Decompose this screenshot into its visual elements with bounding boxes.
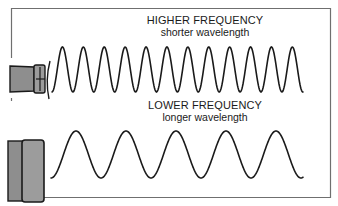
low-frequency-transducer-icon xyxy=(8,140,44,202)
low-frequency-subtitle: longer wavelength xyxy=(120,112,290,123)
transducer-head xyxy=(22,140,44,202)
high-frequency-subtitle: shorter wavelength xyxy=(120,27,290,38)
frequency-wavelength-diagram: HIGHER FREQUENCY shorter wavelength LOWE… xyxy=(0,0,338,206)
transducer-body xyxy=(10,66,34,92)
transducer-lens xyxy=(47,61,50,99)
high-frequency-transducer-icon xyxy=(10,61,50,99)
low-frequency-title: LOWER FREQUENCY xyxy=(120,100,290,111)
low-frequency-wave xyxy=(51,131,303,178)
high-frequency-wave xyxy=(52,47,303,92)
high-frequency-title: HIGHER FREQUENCY xyxy=(120,15,290,26)
